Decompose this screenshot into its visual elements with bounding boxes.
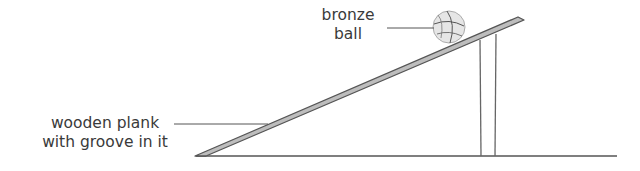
support-left [480, 40, 481, 156]
bronze-ball-label-line1: bronze [315, 6, 381, 25]
wooden-plank-label: wooden plank with groove in it [30, 114, 180, 152]
support-right [495, 34, 496, 156]
bronze-ball-icon [433, 11, 465, 43]
wooden-plank-label-line1: wooden plank [30, 114, 180, 133]
bronze-ball-label: bronze ball [315, 6, 381, 44]
wooden-plank-label-line2: with groove in it [30, 133, 180, 152]
bronze-ball-label-line2: ball [315, 25, 381, 44]
